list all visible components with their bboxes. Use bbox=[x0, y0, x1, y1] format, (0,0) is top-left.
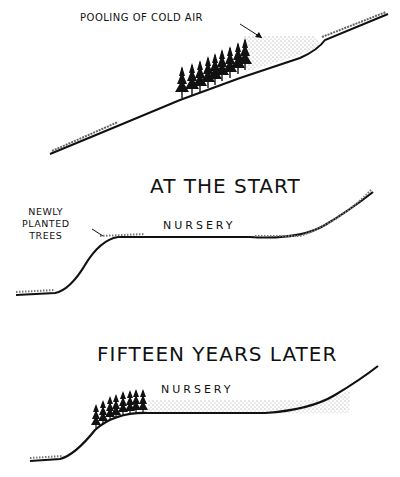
slope-ground-line bbox=[50, 14, 388, 154]
later-ground-line bbox=[30, 366, 378, 461]
newly-planted-trees-label: NEWLY PLANTED TREES bbox=[22, 206, 69, 242]
slope-panel bbox=[50, 12, 388, 154]
start-panel bbox=[16, 189, 373, 295]
cold-air-label: POOLING OF COLD AIR bbox=[80, 12, 203, 23]
later-panel bbox=[30, 366, 378, 461]
label-line: TREES bbox=[22, 230, 69, 242]
label-line: PLANTED bbox=[22, 218, 69, 230]
start-ground-line bbox=[16, 192, 373, 295]
label-line: NEWLY bbox=[22, 206, 69, 218]
forest-stand bbox=[175, 38, 252, 98]
start-nursery-label: NURSERY bbox=[163, 219, 236, 232]
later-title: FIFTEEN YEARS LATER bbox=[97, 342, 337, 366]
grown-tree-belt bbox=[91, 389, 148, 428]
later-nursery-label: NURSERY bbox=[161, 383, 234, 396]
start-title: AT THE START bbox=[150, 174, 301, 198]
